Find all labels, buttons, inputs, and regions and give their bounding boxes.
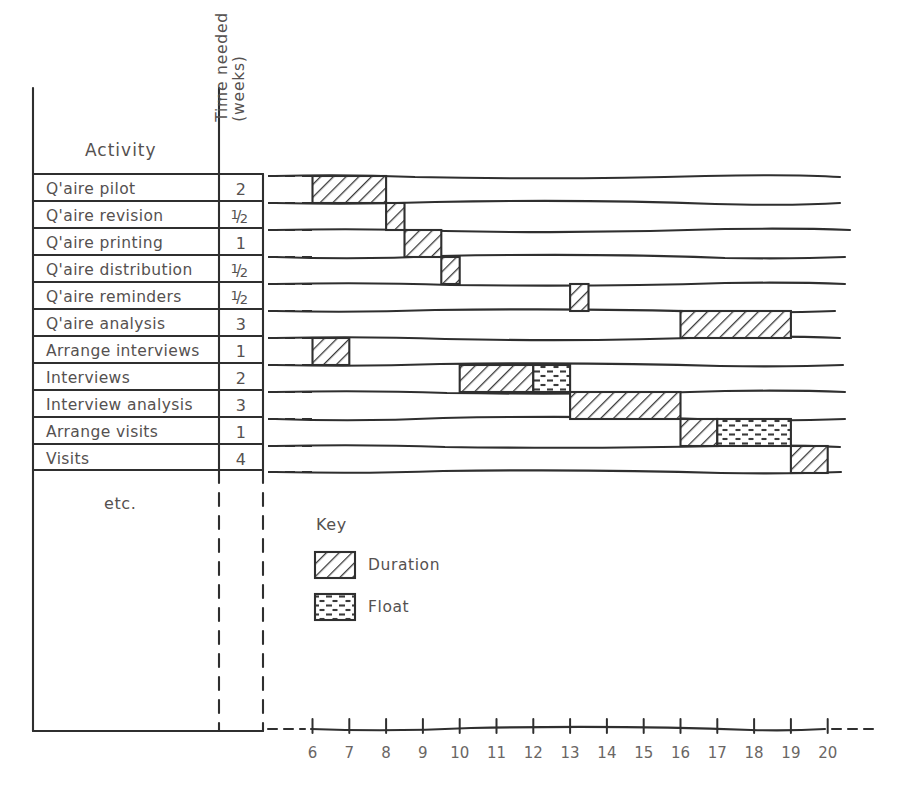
activity-label: Visits xyxy=(46,450,90,468)
axis-tick-label: 6 xyxy=(298,744,328,762)
activity-label: Interviews xyxy=(46,369,130,387)
axis-tick-label: 11 xyxy=(482,744,512,762)
column-header-activity: Activity xyxy=(85,140,157,160)
time-needed-line1: Time needed xyxy=(213,12,231,122)
axis-tick-label: 9 xyxy=(408,744,438,762)
axis-tick-label: 20 xyxy=(813,744,843,762)
axis-tick-label: 18 xyxy=(739,744,769,762)
legend-label: Duration xyxy=(368,556,440,574)
activity-label: Arrange interviews xyxy=(46,342,200,360)
time-needed-line2: (weeks) xyxy=(230,55,248,122)
activity-label: Q'aire printing xyxy=(46,234,163,252)
duration-bar xyxy=(681,311,791,338)
axis-tick-label: 19 xyxy=(776,744,806,762)
axis-tick-label: 15 xyxy=(629,744,659,762)
axis-tick-label: 13 xyxy=(555,744,585,762)
duration-bar xyxy=(681,419,718,446)
duration-bar xyxy=(386,203,404,230)
axis-tick-label: 8 xyxy=(371,744,401,762)
legend-swatches xyxy=(315,552,355,620)
activity-label: Arrange visits xyxy=(46,423,158,441)
duration-value: 1/2 xyxy=(219,261,263,280)
duration-value: 1 xyxy=(219,234,263,253)
duration-bar xyxy=(405,230,442,257)
float-bar xyxy=(717,419,791,446)
axis-tick-label: 16 xyxy=(666,744,696,762)
duration-bar xyxy=(570,392,680,419)
activity-label: Q'aire revision xyxy=(46,207,164,225)
duration-value: 4 xyxy=(219,450,263,469)
gantt-chart: Time needed (weeks) Activity Q'aire pilo… xyxy=(0,0,906,792)
duration-bar xyxy=(441,257,459,284)
legend-swatch-duration xyxy=(315,552,355,578)
duration-value: 3 xyxy=(219,315,263,334)
duration-bar xyxy=(313,176,387,203)
duration-value: 2 xyxy=(219,180,263,199)
duration-value: 1/2 xyxy=(219,288,263,307)
row-dashed-connectors xyxy=(268,176,312,472)
axis-tick-label: 7 xyxy=(334,744,364,762)
duration-bar xyxy=(313,338,350,365)
duration-value: 1 xyxy=(219,423,263,442)
axis-tick-label: 12 xyxy=(518,744,548,762)
duration-value: 1/2 xyxy=(219,207,263,226)
etc-note: etc. xyxy=(104,494,136,513)
column-header-time-needed: Time needed (weeks) xyxy=(214,12,248,122)
duration-value: 3 xyxy=(219,396,263,415)
activity-label: Q'aire analysis xyxy=(46,315,166,333)
bars-layer xyxy=(313,176,828,473)
duration-bar xyxy=(791,446,828,473)
legend-label: Float xyxy=(368,598,409,616)
duration-value: 1 xyxy=(219,342,263,361)
duration-value: 2 xyxy=(219,369,263,388)
activity-label: Q'aire distribution xyxy=(46,261,193,279)
x-axis xyxy=(268,719,876,733)
axis-tick-label: 10 xyxy=(445,744,475,762)
legend-title: Key xyxy=(316,515,347,534)
activity-label: Q'aire pilot xyxy=(46,180,136,198)
legend-swatch-float xyxy=(315,594,355,620)
axis-tick-label: 14 xyxy=(592,744,622,762)
duration-bar xyxy=(570,284,588,311)
float-bar xyxy=(533,365,570,392)
axis-tick-label: 17 xyxy=(702,744,732,762)
activity-label: Interview analysis xyxy=(46,396,193,414)
activity-label: Q'aire reminders xyxy=(46,288,182,306)
duration-bar xyxy=(460,365,534,392)
